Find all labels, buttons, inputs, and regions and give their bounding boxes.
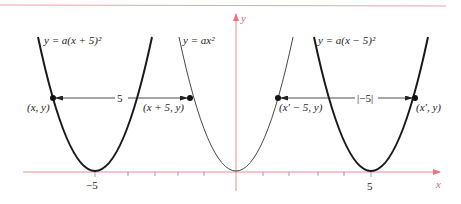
parabola-left (38, 37, 152, 171)
curve-label-center: y = ax² (182, 34, 215, 46)
point-label-p1: (x, y) (27, 101, 50, 114)
point-p2 (187, 95, 193, 101)
point-label-p2: (x + 5, y) (143, 101, 184, 114)
x-ticks (95, 172, 371, 177)
parabola-translation-diagram: x y −5 5 y = a(x + 5)² y = ax² y = a(x −… (0, 0, 461, 204)
shift-label-left: 5 (117, 92, 123, 104)
point-label-p4: (x′, y) (416, 101, 441, 114)
point-p1 (50, 95, 56, 101)
tick-label-pos5: 5 (367, 180, 373, 192)
y-axis-label: y (240, 12, 246, 24)
curve-label-right: y = a(x − 5)² (317, 34, 376, 47)
curve-label-left: y = a(x + 5)² (43, 34, 102, 47)
tick-label-neg5: −5 (86, 179, 98, 191)
x-axis-label: x (435, 178, 441, 190)
top-rule (0, 5, 446, 6)
point-label-p3: (x′ − 5, y) (279, 101, 323, 114)
shift-label-right: |−5| (357, 92, 373, 104)
parabola-right (314, 37, 428, 171)
